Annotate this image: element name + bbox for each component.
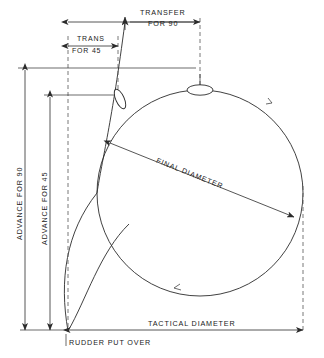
advance-for-45-label: ADVANCE FOR 45 [40,172,49,245]
turning-circle-path [97,90,303,296]
ship-at-90-degrees-icon [187,74,213,95]
tactical-diameter-label: TACTICAL DIAMETER [148,319,236,328]
direction-arrow-bottom [174,284,181,290]
trans-for-45-label-line2: FOR 45 [72,47,101,54]
trans-for-45-label-line1: TRANS [77,35,105,42]
turning-circle-diagram: TRANSFER FOR 90 TRANS FOR 45 ADVANCE FOR… [0,0,324,358]
direction-arrow-upper-right [266,98,272,104]
final-diameter-label: FINAL DIAMETER [155,156,225,191]
transfer-for-90-label-line2: FOR 90 [148,19,178,28]
transfer-for-90-label-line1: TRANSFER [140,8,186,17]
ship-at-45-degrees-icon [112,88,128,111]
turning-circle-drawing: TRANSFER FOR 90 TRANS FOR 45 ADVANCE FOR… [0,0,324,358]
rudder-put-over-label: RUDDER PUT OVER [69,338,151,347]
advance-for-90-label: ADVANCE FOR 90 [15,167,24,240]
projector-lines [18,68,196,95]
